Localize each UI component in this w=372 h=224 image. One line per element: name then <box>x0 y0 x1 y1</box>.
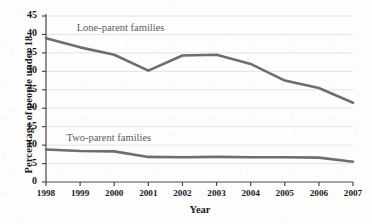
y-tick-label: 35 <box>15 46 37 57</box>
y-tick-label: 10 <box>15 138 37 149</box>
y-tick-label: 25 <box>15 83 37 94</box>
line-chart: Percentage of people under 18 Year 05101… <box>0 0 372 224</box>
y-tick-label: 5 <box>15 157 37 168</box>
y-tick-label: 20 <box>15 101 37 112</box>
y-tick-label: 40 <box>15 27 37 38</box>
y-tick-label: 45 <box>15 9 37 20</box>
y-tick-label: 0 <box>15 175 37 186</box>
x-tick-label: 2007 <box>333 188 372 198</box>
y-tick-label: 15 <box>15 120 37 131</box>
series-label-1: Lone-parent families <box>77 22 165 33</box>
x-axis-title: Year <box>46 204 354 215</box>
series-label-2: Two-parent families <box>66 132 151 143</box>
series-line-2 <box>46 150 353 162</box>
y-tick-label: 30 <box>15 64 37 75</box>
series-line-1 <box>46 38 353 103</box>
